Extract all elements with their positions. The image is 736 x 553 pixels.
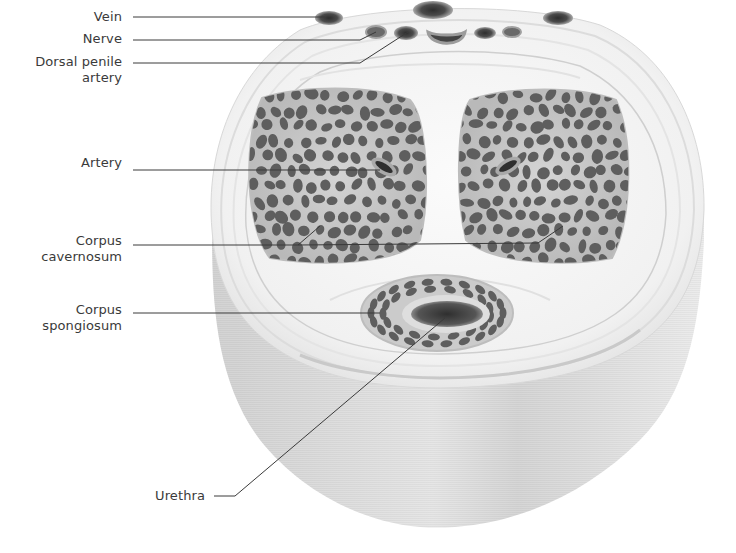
- corpus-cavernosum-right: [449, 86, 640, 270]
- label-corpus-spongiosum: Corpus spongiosum: [10, 302, 122, 334]
- superficial-vein-left: [315, 11, 343, 25]
- cavernous-sinus: [314, 168, 326, 176]
- label-artery: Artery: [40, 155, 122, 171]
- label-dorsal-penile-artery: Dorsal penile artery: [10, 54, 122, 86]
- superficial-vein-right: [543, 11, 573, 25]
- label-corpus-cavernosum: Corpus cavernosum: [10, 233, 122, 265]
- corpus-spongiosum: [361, 275, 513, 351]
- dorsal-nerve-right: [503, 27, 521, 37]
- corpus-cavernosum-left: [243, 85, 436, 270]
- dorsal-artery-right: [474, 27, 496, 39]
- label-nerve: Nerve: [40, 31, 122, 47]
- superficial-vein-center: [413, 1, 453, 19]
- label-urethra: Urethra: [110, 488, 205, 504]
- urethra-lumen: [411, 301, 483, 327]
- label-vein: Vein: [40, 9, 122, 25]
